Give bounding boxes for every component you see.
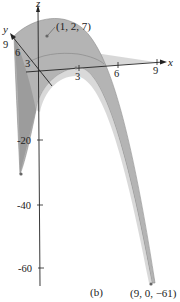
x-tick-label-9: 9 — [153, 65, 158, 76]
surface-body — [14, 18, 155, 283]
inner-point-marker — [75, 67, 78, 70]
y-tick-label-9: 9 — [3, 39, 8, 50]
z-axis-label: z — [35, 0, 41, 9]
figure-caption: (b) — [90, 286, 103, 298]
x-tick-label-6: 6 — [114, 68, 119, 79]
left-point-marker — [19, 172, 22, 175]
max-point-label: (1, 2, 7) — [56, 20, 91, 33]
y-axis-label: y — [2, 23, 8, 35]
y-tick-label-6: 6 — [15, 47, 20, 58]
z-tick-label-60: -60 — [18, 263, 32, 274]
min-point-marker — [149, 282, 152, 285]
y-tick-label-3: 3 — [25, 58, 30, 69]
x-tick-label-3: 3 — [75, 71, 80, 82]
z-tick-label-40: -40 — [17, 200, 31, 211]
surface-plot: z x y 3 6 9 9 6 3 -20 -40 -60 (1, 2, 7) … — [0, 0, 180, 302]
min-point-label: (9, 0, −61) — [130, 287, 177, 300]
z-tick-label-20: -20 — [17, 135, 31, 146]
x-axis-arrow — [160, 60, 167, 65]
x-axis-label: x — [167, 56, 173, 68]
